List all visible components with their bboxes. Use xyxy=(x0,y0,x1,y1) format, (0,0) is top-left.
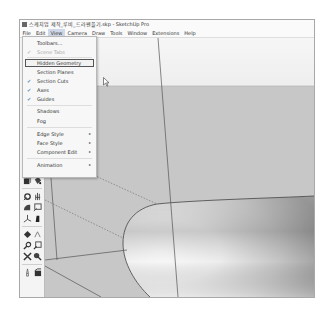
axes-icon[interactable] xyxy=(23,214,32,223)
submenu-arrow-icon: ▸ xyxy=(89,161,91,169)
menu-item-fog[interactable]: Fog xyxy=(23,117,96,125)
menu-separator xyxy=(27,158,92,159)
window-title: 스케치업 제작_루비_드라펜플기.skp - SketchUp Pro xyxy=(29,21,149,27)
menu-item-section-planes[interactable]: Section Planes xyxy=(23,68,96,76)
menu-separator xyxy=(27,127,92,128)
mouse-cursor-icon xyxy=(103,77,110,87)
checkmark-icon: ✔ xyxy=(27,48,31,56)
section-plane-icon[interactable] xyxy=(23,230,32,239)
toolbar-separator xyxy=(22,264,42,265)
menu-tools[interactable]: Tools xyxy=(108,29,125,37)
menu-item-scene-tabs: ✔ Scene Tabs xyxy=(23,48,96,56)
menu-separator xyxy=(27,105,92,106)
checkmark-icon: ✔ xyxy=(27,77,31,85)
toolbar-separator xyxy=(22,226,42,227)
zoom-icon[interactable] xyxy=(23,241,32,250)
submenu-arrow-icon: ▸ xyxy=(89,130,91,138)
walk-icon[interactable] xyxy=(33,230,42,239)
zoom-extents-icon[interactable] xyxy=(23,252,32,261)
submenu-arrow-icon: ▸ xyxy=(89,148,91,156)
position-camera-icon[interactable] xyxy=(23,268,32,277)
checkmark-icon: ✔ xyxy=(27,86,31,94)
menu-separator xyxy=(27,57,92,58)
menu-window[interactable]: Window xyxy=(125,29,150,37)
menu-item-guides[interactable]: ✔ Guides xyxy=(23,95,96,103)
menu-item-component-edit[interactable]: Component Edit ▸ xyxy=(23,148,96,156)
toolbar-separator xyxy=(22,188,42,189)
menu-extensions[interactable]: Extensions xyxy=(150,29,182,37)
menu-help[interactable]: Help xyxy=(182,29,198,37)
menu-item-axes[interactable]: ✔ Axes xyxy=(23,86,96,94)
text-icon[interactable] xyxy=(33,203,42,212)
menu-item-section-cuts[interactable]: ✔ Section Cuts xyxy=(23,77,96,85)
surface-shading xyxy=(123,196,314,297)
orbit-icon[interactable] xyxy=(23,192,32,201)
protractor-icon[interactable] xyxy=(23,203,32,212)
checkmark-icon: ✔ xyxy=(27,95,31,103)
menu-item-toolbars[interactable]: Toolbars... xyxy=(23,39,96,47)
pan-icon[interactable] xyxy=(33,192,42,201)
submenu-arrow-icon: ▸ xyxy=(89,139,91,147)
menu-item-face-style[interactable]: Face Style ▸ xyxy=(23,139,96,147)
zoom-window-icon[interactable] xyxy=(33,241,42,250)
dimension-icon[interactable] xyxy=(33,214,42,223)
menu-item-edge-style[interactable]: Edge Style ▸ xyxy=(23,130,96,138)
look-around-icon[interactable] xyxy=(33,252,42,261)
previous-view-icon[interactable] xyxy=(33,268,42,277)
title-bar: 스케치업 제작_루비_드라펜플기.skp - SketchUp Pro xyxy=(20,20,314,29)
view-menu-dropdown: Toolbars... ✔ Scene Tabs Hidden Geometry… xyxy=(22,36,97,178)
menu-item-hidden-geometry[interactable]: Hidden Geometry xyxy=(25,59,94,67)
menu-item-shadows[interactable]: Shadows xyxy=(23,107,96,115)
menu-item-animation[interactable]: Animation ▸ xyxy=(23,161,96,169)
sketchup-app-icon xyxy=(22,22,27,27)
